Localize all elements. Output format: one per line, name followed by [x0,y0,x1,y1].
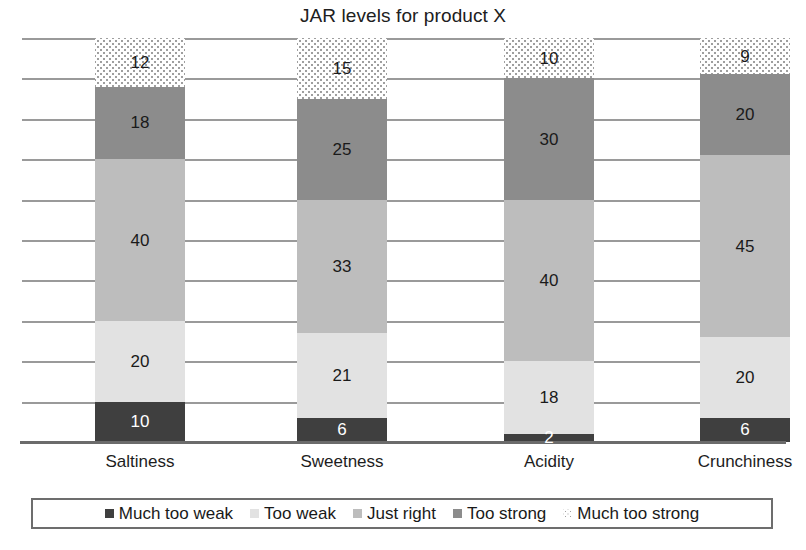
legend-swatch-icon [563,509,572,518]
bar-segment-value: 45 [736,238,755,255]
bar-segment-much-too-strong[interactable]: 9 [700,38,790,74]
bar-segment-too-weak[interactable]: 18 [504,361,594,434]
legend-label: Too weak [264,505,336,522]
bar-segment-value: 6 [337,421,346,438]
legend-label: Just right [367,505,436,522]
bar-segment-much-too-strong[interactable]: 10 [504,38,594,78]
legend-label: Much too strong [577,505,699,522]
x-axis-label-crunchiness: Crunchiness [665,452,806,472]
bar-segment-much-too-weak[interactable]: 6 [297,418,387,442]
x-axis-category-labels: SaltinessSweetnessAcidityCrunchiness [22,452,784,482]
bar-segment-value: 6 [740,421,749,438]
bar-segment-value: 20 [131,353,150,370]
bar-segment-too-strong[interactable]: 18 [95,87,185,160]
chart-legend: Much too weakToo weakJust rightToo stron… [31,498,773,529]
x-axis-label-sweetness: Sweetness [262,452,422,472]
bar-segment-just-right[interactable]: 40 [504,200,594,362]
chart-container: JAR levels for product X 102040181262133… [0,0,806,550]
bar-segment-just-right[interactable]: 33 [297,200,387,333]
bar-segment-value: 18 [131,114,150,131]
bar-segment-value: 10 [540,50,559,67]
legend-item-too-weak[interactable]: Too weak [250,505,336,522]
bar-segment-much-too-strong[interactable]: 15 [297,38,387,99]
bar-stack: 218403010 [504,38,594,442]
bar-segment-value: 40 [131,232,150,249]
bar-segment-value: 20 [736,369,755,386]
x-axis-label-saltiness: Saltiness [60,452,220,472]
bar-segment-value: 18 [540,389,559,406]
bar-segment-too-weak[interactable]: 20 [700,337,790,418]
legend-swatch-icon [453,509,462,518]
legend-item-much-too-strong[interactable]: Much too strong [563,505,699,522]
bar-stack: 1020401812 [95,38,185,442]
bar-segment-value: 25 [333,141,352,158]
bar-group-saltiness[interactable]: 1020401812 [95,38,185,442]
bar-segment-value: 33 [333,258,352,275]
bar-segment-just-right[interactable]: 40 [95,159,185,321]
bar-group-sweetness[interactable]: 621332515 [297,38,387,442]
bar-group-crunchiness[interactable]: 62045209 [700,38,790,442]
bar-stack: 62045209 [700,38,790,442]
x-axis-label-acidity: Acidity [469,452,629,472]
legend-item-much-too-weak[interactable]: Much too weak [105,505,233,522]
bar-segment-value: 2 [544,429,553,446]
legend-item-just-right[interactable]: Just right [353,505,436,522]
bar-segment-value: 30 [540,131,559,148]
bar-group-acidity[interactable]: 218403010 [504,38,594,442]
bar-segment-too-strong[interactable]: 30 [504,78,594,199]
bar-segment-too-weak[interactable]: 20 [95,321,185,402]
axis-baseline [20,441,786,444]
bar-segment-value: 9 [740,48,749,65]
legend-swatch-icon [250,509,259,518]
bar-segment-much-too-strong[interactable]: 12 [95,38,185,86]
bar-segment-value: 20 [736,106,755,123]
bar-segment-value: 12 [131,54,150,71]
bar-segment-too-strong[interactable]: 20 [700,74,790,155]
chart-title: JAR levels for product X [0,5,806,27]
bar-segment-value: 10 [131,413,150,430]
bar-stack: 621332515 [297,38,387,442]
legend-swatch-icon [105,509,114,518]
legend-swatch-icon [353,509,362,518]
bar-segment-value: 40 [540,272,559,289]
bar-segment-much-too-weak[interactable]: 6 [700,418,790,442]
bar-segment-just-right[interactable]: 45 [700,155,790,337]
bar-segment-much-too-weak[interactable]: 10 [95,402,185,442]
bar-segment-too-strong[interactable]: 25 [297,99,387,200]
bar-segment-too-weak[interactable]: 21 [297,333,387,418]
bar-segment-value: 15 [333,60,352,77]
bar-series-container: 102040181262133251521840301062045209 [22,38,784,442]
legend-label: Too strong [467,505,546,522]
legend-item-too-strong[interactable]: Too strong [453,505,546,522]
legend-label: Much too weak [119,505,233,522]
plot-area: 102040181262133251521840301062045209 [22,38,784,442]
bar-segment-value: 21 [333,367,352,384]
